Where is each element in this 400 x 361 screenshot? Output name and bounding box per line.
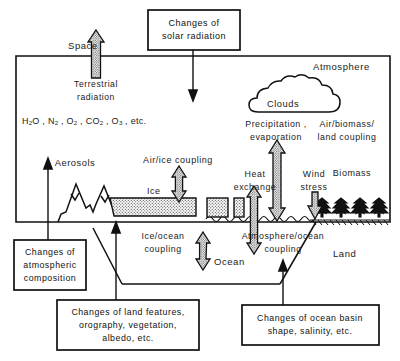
wind-stress-arrow <box>308 192 322 219</box>
region-label-ocean: Ocean <box>214 256 245 267</box>
biomass-trees <box>313 198 388 217</box>
land-features-connector <box>112 222 120 300</box>
ice-ocean-coupling-arrow <box>196 232 210 270</box>
air-biomass-land-coupling-label: Air/biomass/ land coupling <box>318 118 377 144</box>
change-box-ocean-basin-text: Changes of ocean basin shape, salinity, … <box>257 312 363 338</box>
precipitation-evaporation-label: Precipitation , evaporation <box>245 118 307 144</box>
ice-shelf <box>110 198 196 216</box>
region-label-ice: Ice <box>147 186 161 196</box>
atmospheric-composition-connector <box>44 158 52 240</box>
terrestrial-radiation-label: Terrestrial radiation <box>74 78 118 104</box>
solar-radiation-connector <box>189 50 197 101</box>
atmosphere-ocean-coupling-label: Atmosphere/ocean coupling <box>242 230 325 256</box>
ice-ocean-coupling-label: Ice/ocean coupling <box>141 230 184 256</box>
air-ice-coupling-arrow <box>172 166 186 202</box>
aerosols-label: Aerosols <box>55 158 96 168</box>
region-label-land: Land <box>333 248 356 259</box>
air-ice-coupling-label: Air/ice coupling <box>143 155 213 165</box>
climate-system-diagram <box>0 0 400 361</box>
clouds-text: Clouds <box>267 99 299 109</box>
terrestrial-radiation-arrow <box>88 30 104 78</box>
change-box-atmospheric-composition-text: Changes of atmospheric composition <box>23 246 76 284</box>
ice-floe-large <box>207 198 228 217</box>
atmospheric-composition-formula: H2O , N2 , O2 , CO2 , O3 , etc. <box>22 116 146 126</box>
biomass-label: Biomass <box>333 168 371 178</box>
ice-floe-small <box>234 198 244 217</box>
heat-exchange-label: Heat exchange <box>234 168 277 194</box>
change-box-land-features-text: Changes of land features, orography, veg… <box>71 306 184 344</box>
mountains <box>58 184 118 222</box>
wind-stress-label: Wind stress <box>301 168 328 194</box>
change-box-solar-radiation-text: Changes of solar radiation <box>162 17 226 43</box>
region-label-atmosphere: Atmosphere <box>313 61 370 72</box>
region-label-space: Space <box>68 40 98 51</box>
